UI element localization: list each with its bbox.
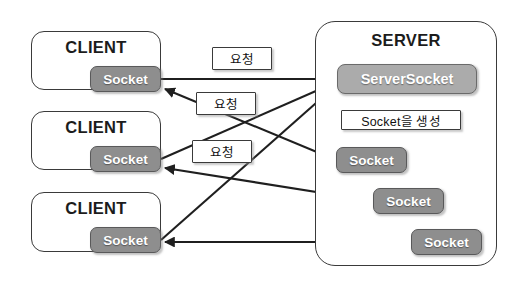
client-socket-1-label: Socket (103, 72, 147, 87)
socket-create-label: Socket을 생성 (341, 110, 461, 130)
server-socket-3: Socket (411, 229, 482, 255)
server-socket-1: Socket (336, 147, 407, 173)
request-label-2: 요청 (196, 92, 256, 115)
client-title-3: CLIENT (32, 199, 160, 218)
client-socket-2-label: Socket (103, 152, 147, 167)
serversocket-chip: ServerSocket (337, 64, 477, 94)
request-label-1-text: 요청 (230, 49, 254, 68)
client-socket-1: Socket (90, 66, 161, 92)
server-socket-2-label: Socket (386, 194, 430, 209)
server-socket-2: Socket (373, 188, 444, 214)
request-label-2-text: 요청 (214, 94, 238, 113)
client-title-1: CLIENT (32, 38, 160, 57)
client-title-2: CLIENT (32, 118, 160, 137)
request-label-1: 요청 (212, 47, 272, 70)
serversocket-label: ServerSocket (361, 71, 454, 87)
client-socket-3: Socket (90, 227, 161, 253)
client-socket-3-label: Socket (103, 233, 147, 248)
server-title: SERVER (316, 31, 496, 50)
server-socket-3-label: Socket (424, 235, 468, 250)
request-label-3-text: 요청 (210, 142, 234, 161)
socket-create-label-text: Socket을 생성 (361, 111, 441, 130)
diagram-canvas: CLIENT Socket CLIENT Socket CLIENT Socke… (0, 0, 520, 288)
client-socket-2: Socket (90, 146, 161, 172)
request-label-3: 요청 (192, 140, 252, 163)
server-socket-1-label: Socket (349, 153, 393, 168)
